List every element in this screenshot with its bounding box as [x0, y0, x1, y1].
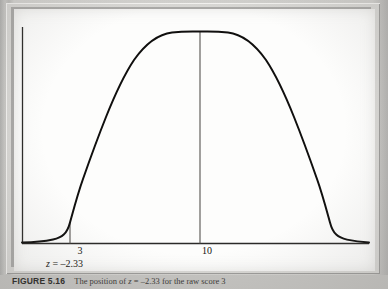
caption-text-after: = –2.33 for the raw score 3 — [132, 276, 226, 286]
figure-caption-label: FIGURE 5.16 — [12, 276, 65, 286]
tick-label-raw-score: 3 — [69, 245, 91, 256]
figure-caption-text: The position of z = –2.33 for the raw sc… — [65, 276, 225, 286]
normal-distribution-chart — [14, 9, 375, 271]
normal-curve — [22, 32, 369, 243]
figure-caption-strip: FIGURE 5.16The position of z = –2.33 for… — [0, 275, 388, 289]
figure-page: 3 10 z = –2.33 FIGURE 5.16The position o… — [0, 0, 388, 289]
caption-text-before: The position of — [74, 276, 128, 286]
z-value-text: = –2.33 — [50, 258, 83, 269]
figure-caption: FIGURE 5.16The position of z = –2.33 for… — [12, 276, 226, 286]
z-score-annotation: z = –2.33 — [46, 258, 83, 269]
figure-frame: 3 10 z = –2.33 — [6, 3, 380, 274]
plot-panel: 3 10 z = –2.33 — [14, 9, 375, 271]
tick-label-mean: 10 — [196, 245, 218, 256]
